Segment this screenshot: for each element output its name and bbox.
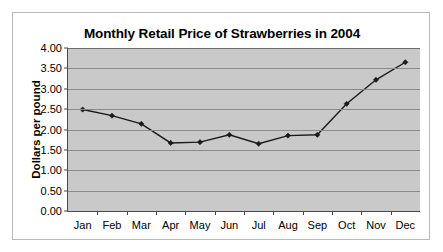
x-axis-tick-label: Jan — [74, 219, 92, 231]
y-axis-tick-mark — [64, 170, 68, 171]
x-axis-tick-mark — [332, 211, 333, 215]
gridline — [68, 130, 420, 131]
x-axis-tick-label: Mar — [132, 219, 151, 231]
x-axis-tick-label: Feb — [103, 219, 122, 231]
y-axis-tick-label: 3.00 — [41, 83, 62, 95]
gridline — [68, 109, 420, 110]
series-line — [83, 62, 406, 144]
x-axis-tick-label: Jun — [220, 219, 238, 231]
gridline — [68, 150, 420, 151]
x-axis-tick-mark — [215, 211, 216, 215]
data-point-marker — [285, 133, 290, 138]
x-axis-tick-mark — [361, 211, 362, 215]
plot-area: 4.003.503.002.502.001.501.000.500.00JanF… — [67, 48, 420, 212]
x-axis-tick-label: Sep — [308, 219, 328, 231]
x-axis-tick-label: Apr — [162, 219, 179, 231]
x-axis-tick-label: Dec — [396, 219, 416, 231]
x-axis-tick-mark — [273, 211, 274, 215]
y-axis-tick-label: 4.00 — [41, 42, 62, 54]
x-axis-tick-mark — [97, 211, 98, 215]
x-axis-tick-mark — [156, 211, 157, 215]
y-axis-tick-label: 2.00 — [41, 124, 62, 136]
data-point-marker — [227, 132, 232, 137]
y-axis-tick-mark — [64, 68, 68, 69]
gridline — [68, 68, 420, 69]
data-point-marker — [197, 140, 202, 145]
y-axis-tick-mark — [64, 129, 68, 130]
x-axis-tick-mark — [185, 211, 186, 215]
y-axis-tick-label: 1.50 — [41, 144, 62, 156]
x-axis-tick-label: May — [190, 219, 211, 231]
y-axis-tick-mark — [64, 190, 68, 191]
data-point-marker — [256, 141, 261, 146]
y-axis-tick-mark — [64, 88, 68, 89]
x-axis-tick-label: Aug — [278, 219, 298, 231]
chart-title: Monthly Retail Price of Strawberries in … — [13, 26, 431, 41]
gridline — [68, 191, 420, 192]
gridline — [68, 170, 420, 171]
x-axis-tick-mark — [391, 211, 392, 215]
y-axis-tick-label: 1.00 — [41, 164, 62, 176]
gridline — [68, 89, 420, 90]
y-axis-tick-label: 2.50 — [41, 103, 62, 115]
data-point-marker — [109, 113, 114, 118]
y-axis-tick-mark — [64, 48, 68, 49]
y-axis-tick-mark — [64, 149, 68, 150]
y-axis-tick-label: 0.50 — [41, 185, 62, 197]
x-axis-tick-mark — [303, 211, 304, 215]
chart-frame: Monthly Retail Price of Strawberries in … — [12, 12, 430, 240]
y-axis-tick-label: 0.00 — [41, 205, 62, 217]
gridline — [68, 48, 420, 49]
y-axis-tick-mark — [64, 211, 68, 212]
x-axis-tick-label: Jul — [252, 219, 266, 231]
x-axis-tick-mark — [244, 211, 245, 215]
y-axis-tick-mark — [64, 109, 68, 110]
x-axis-tick-label: Nov — [366, 219, 386, 231]
y-axis-tick-label: 3.50 — [41, 62, 62, 74]
x-axis-tick-mark — [127, 211, 128, 215]
x-axis-tick-label: Oct — [338, 219, 355, 231]
